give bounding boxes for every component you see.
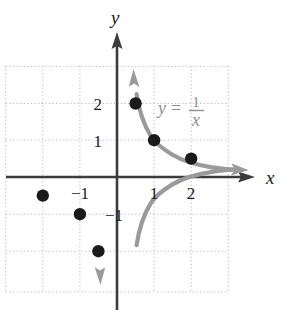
equation-operator: = [171,98,181,118]
x-axis-label: x [265,167,275,188]
data-point [129,97,141,109]
equation-lhs: y [156,98,166,118]
curve-arrowhead-down [95,267,106,285]
y-tick-label-neg1: −1 [105,206,123,225]
data-point [185,152,197,164]
y-axis-label: y [109,7,120,28]
curve-path-negative [137,170,240,246]
equation-denominator: x [191,110,200,130]
equation-numerator: 1 [192,94,200,110]
data-point [74,208,86,220]
curve-arrowhead-up [129,69,140,87]
x-tick-label-1: 1 [150,184,159,203]
coordinate-plane-svg: y x 2 1 −1 −1 1 2 y = 1 x [0,0,291,318]
y-tick-label-1: 1 [94,132,103,151]
x-tick-label-neg1: −1 [71,184,89,203]
data-point [148,134,160,146]
y-tick-label-2: 2 [94,95,103,114]
axes [6,40,243,310]
data-point [37,189,49,201]
x-tick-label-2: 2 [187,184,196,203]
data-point [92,245,104,257]
equation-annotation: y = 1 x [156,94,204,130]
graph-figure: y x 2 1 −1 −1 1 2 y = 1 x [0,0,291,318]
